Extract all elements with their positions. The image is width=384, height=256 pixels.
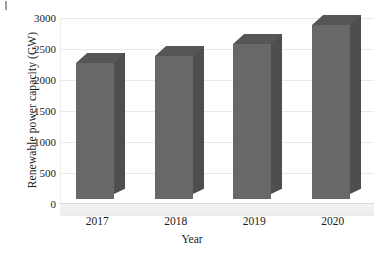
chart-figure: Renewable power capacity (GW) 0500100015… — [0, 0, 384, 256]
scan-artifact — [5, 1, 7, 10]
bar-2018 — [155, 56, 193, 199]
y-tick-label: 500 — [16, 168, 56, 179]
y-tick-label: 3000 — [16, 13, 56, 24]
y-tick-label: 1500 — [16, 106, 56, 117]
plot-area — [60, 18, 374, 211]
y-axis-tick-labels: 050010001500200025003000 — [16, 0, 56, 256]
bar-front-face — [155, 56, 193, 199]
bar-front-face — [76, 63, 114, 199]
bar-2019 — [233, 44, 271, 199]
bar-front-face — [233, 44, 271, 199]
bar-front-face — [312, 25, 350, 199]
x-axis-title: Year — [0, 233, 384, 245]
x-tick-label-2020: 2020 — [298, 215, 368, 227]
bar-side-face — [350, 15, 361, 194]
y-tick-label: 2500 — [16, 44, 56, 55]
bar-2020 — [312, 25, 350, 199]
y-tick-label: 0 — [16, 199, 56, 210]
bar-side-face — [271, 34, 282, 194]
x-tick-label-2017: 2017 — [62, 215, 132, 227]
x-tick-label-2018: 2018 — [141, 215, 211, 227]
bar-2017 — [76, 63, 114, 199]
y-tick-label: 1000 — [16, 137, 56, 148]
y-tick-label: 2000 — [16, 75, 56, 86]
x-tick-label-2019: 2019 — [219, 215, 289, 227]
bar-side-face — [193, 46, 204, 194]
bar-side-face — [114, 52, 125, 194]
